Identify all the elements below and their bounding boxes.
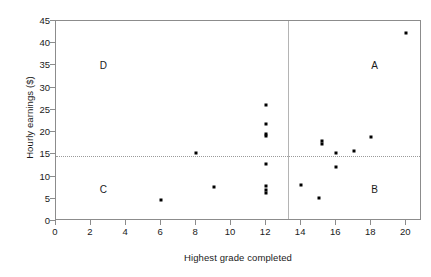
horizontal-reference-line xyxy=(56,156,420,157)
data-point xyxy=(265,163,268,166)
quadrant-label-b: B xyxy=(371,183,378,194)
data-point xyxy=(321,139,324,142)
y-tick-label: 0 xyxy=(20,215,50,226)
x-tick-mark xyxy=(230,220,231,225)
x-tick-label: 6 xyxy=(145,226,175,237)
x-tick-mark xyxy=(370,220,371,225)
data-point xyxy=(265,185,268,188)
x-tick-label: 14 xyxy=(285,226,315,237)
x-tick-label: 18 xyxy=(355,226,385,237)
data-point xyxy=(265,188,268,191)
x-tick-mark xyxy=(265,220,266,225)
x-tick-label: 16 xyxy=(320,226,350,237)
y-tick-label: 5 xyxy=(20,192,50,203)
x-tick-label: 2 xyxy=(75,226,105,237)
x-tick-label: 12 xyxy=(250,226,280,237)
x-tick-mark xyxy=(335,220,336,225)
quadrant-label-c: C xyxy=(100,183,107,194)
data-point xyxy=(195,152,198,155)
data-point xyxy=(370,136,373,139)
x-tick-label: 4 xyxy=(110,226,140,237)
y-tick-label: 30 xyxy=(20,81,50,92)
x-tick-label: 20 xyxy=(390,226,420,237)
data-point xyxy=(352,150,355,153)
data-point xyxy=(321,143,324,146)
x-tick-label: 8 xyxy=(180,226,210,237)
data-point xyxy=(265,123,268,126)
plot-area: DACB xyxy=(55,20,421,220)
x-axis-title: Highest grade completed xyxy=(55,252,421,263)
x-tick-mark xyxy=(125,220,126,225)
vertical-reference-line xyxy=(288,21,289,219)
x-tick-mark xyxy=(55,220,56,225)
data-point xyxy=(335,165,338,168)
data-point xyxy=(405,32,408,35)
x-tick-label: 10 xyxy=(215,226,245,237)
x-tick-mark xyxy=(300,220,301,225)
y-tick-label: 20 xyxy=(20,126,50,137)
scatter-chart-figure: Hourly earnings ($) Highest grade comple… xyxy=(0,0,431,277)
data-point xyxy=(265,192,268,195)
y-tick-label: 25 xyxy=(20,103,50,114)
x-tick-mark xyxy=(195,220,196,225)
y-tick-label: 40 xyxy=(20,37,50,48)
x-tick-label: 0 xyxy=(40,226,70,237)
data-point xyxy=(317,196,320,199)
quadrant-label-a: A xyxy=(371,60,378,71)
x-tick-mark xyxy=(405,220,406,225)
x-tick-mark xyxy=(160,220,161,225)
data-point xyxy=(265,135,268,138)
quadrant-label-d: D xyxy=(100,60,107,71)
y-tick-label: 35 xyxy=(20,59,50,70)
data-point xyxy=(160,199,163,202)
y-tick-label: 15 xyxy=(20,148,50,159)
data-point xyxy=(335,152,338,155)
x-tick-mark xyxy=(90,220,91,225)
y-tick-label: 10 xyxy=(20,170,50,181)
data-point xyxy=(212,185,215,188)
data-point xyxy=(265,103,268,106)
data-point xyxy=(300,183,303,186)
y-tick-label: 45 xyxy=(20,15,50,26)
